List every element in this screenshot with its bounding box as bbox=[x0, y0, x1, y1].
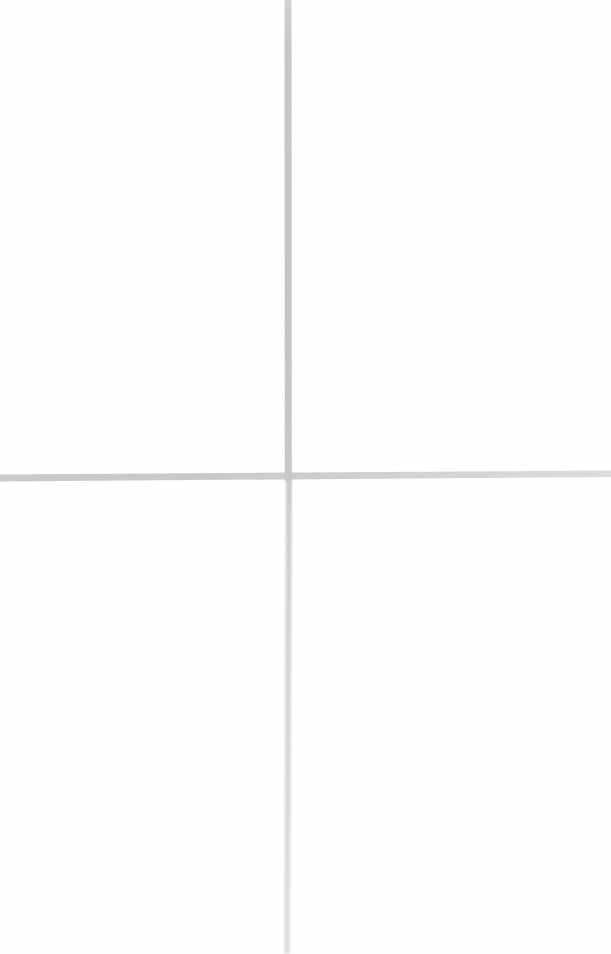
horizontal-stroke bbox=[0, 471, 611, 482]
vertical-stroke-lower bbox=[284, 474, 292, 954]
crosshair-intersection bbox=[285, 473, 292, 482]
scan-canvas: A large light-gray cross / crosshair dra… bbox=[0, 0, 611, 954]
crosshair-figure bbox=[0, 0, 611, 954]
vertical-stroke-upper bbox=[285, 0, 292, 480]
